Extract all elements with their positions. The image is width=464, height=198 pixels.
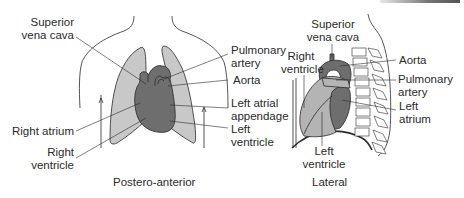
lat-label-superior-vena-cava: Superior vena cava (302, 18, 364, 43)
pa-lv-line2: ventricle (231, 136, 274, 149)
lat-label-pulmonary-artery: Pulmonary artery (398, 73, 453, 98)
lat-spine (352, 48, 370, 136)
lat-lv-line1: Left (302, 145, 346, 158)
pa-pa-line1: Pulmonary (231, 44, 286, 57)
pa-label-left-atrial-appendage: Left atrial appendage (231, 97, 289, 122)
pa-svc-line1: Superior (10, 16, 74, 29)
pa-caption: Postero-anterior (113, 176, 195, 188)
pa-arm-right (202, 107, 206, 148)
pa-rv-line1: Right (10, 146, 74, 159)
pa-aorta-text: Aorta (233, 74, 261, 87)
pa-label-right-ventricle: Right ventricle (10, 146, 74, 171)
lat-la-line2: atrium (399, 113, 431, 126)
lat-rv-line1: Right (281, 50, 321, 63)
lat-label-right-ventricle: Right ventricle (281, 50, 321, 75)
lat-pa-line2: artery (398, 86, 453, 99)
lat-lv-line2: ventricle (302, 158, 346, 171)
pa-label-pulmonary-artery: Pulmonary artery (231, 44, 286, 69)
lateral-caption: Lateral (312, 176, 347, 188)
lat-ribs (368, 48, 388, 154)
pa-rv-line2: ventricle (10, 159, 74, 172)
lat-aorta-text: Aorta (399, 54, 427, 67)
pa-ra-text: Right atrium (2, 125, 74, 138)
pa-svc-line2: vena cava (10, 29, 74, 42)
lat-label-aorta: Aorta (399, 54, 427, 67)
lat-label-left-atrium: Left atrium (399, 100, 431, 125)
pa-label-right-atrium: Right atrium (2, 125, 74, 138)
lat-pa-band (322, 78, 350, 88)
pa-laa-line1: Left atrial (231, 97, 289, 110)
pa-pa-line2: artery (231, 57, 286, 70)
pa-lv-line1: Left (231, 123, 274, 136)
lat-rv-line2: ventricle (281, 63, 321, 76)
pa-label-superior-vena-cava: Superior vena cava (10, 16, 74, 41)
lat-pa-line1: Pulmonary (398, 73, 453, 86)
lat-label-left-ventricle: Left ventricle (302, 145, 346, 170)
lat-la-line1: Left (399, 100, 431, 113)
lat-svc-line1: Superior (302, 18, 364, 31)
pa-label-left-ventricle: Left ventricle (231, 123, 274, 148)
pa-label-aorta: Aorta (233, 74, 261, 87)
lat-svc-line2: vena cava (302, 31, 364, 44)
pa-arm-left (99, 95, 103, 148)
pa-laa-line2: appendage (231, 110, 289, 123)
